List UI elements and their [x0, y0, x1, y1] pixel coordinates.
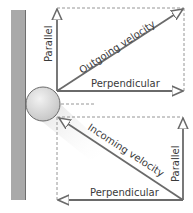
outgoing-velocity-label: Outgoing velocity	[77, 18, 157, 75]
wall	[11, 10, 26, 200]
incoming-perpendicular-label: Perpendicular	[90, 187, 160, 198]
outgoing-parallel-label: Parallel	[43, 26, 54, 62]
diagram-canvas: Parallel Outgoing velocity Perpendicular…	[0, 0, 193, 213]
incoming-parallel-label: Parallel	[170, 146, 181, 182]
outgoing-perpendicular-label: Perpendicular	[91, 78, 161, 89]
ball	[26, 87, 60, 121]
velocity-diagram: Parallel Outgoing velocity Perpendicular…	[0, 0, 193, 213]
